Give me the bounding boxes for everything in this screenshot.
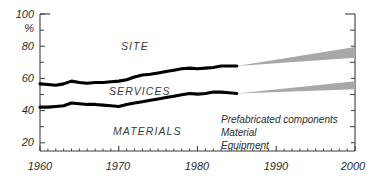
x-tick-label-1970: 1970 (106, 160, 131, 172)
y-tick-label-40: 40 (22, 104, 35, 116)
x-axis-labels: 1960 1970 1980 1990 2000 (28, 160, 366, 172)
band-label-site: SITE (121, 40, 149, 52)
y-tick-label-100: 100 (16, 8, 35, 20)
y-axis-labels: 100 % 80 60 40 20 (16, 8, 35, 148)
annotation-material: Material (221, 127, 257, 138)
x-tick-label-2000: 2000 (340, 160, 366, 172)
chart-svg: 100 % 80 60 40 20 1960 1970 1980 1990 20… (0, 0, 376, 186)
x-tick-label-1990: 1990 (264, 160, 289, 172)
band-label-materials: MATERIALS (113, 125, 182, 137)
x-tick-label-1960: 1960 (28, 160, 53, 172)
annotation-prefabricated-components: Prefabricated components (221, 114, 338, 125)
annotation-equipment: Equipment (221, 140, 270, 151)
y-axis-unit-label: % (24, 22, 34, 34)
chart-container: 100 % 80 60 40 20 1960 1970 1980 1990 20… (0, 0, 376, 186)
x-tick-label-1980: 1980 (185, 160, 210, 172)
y-tick-label-20: 20 (21, 136, 35, 148)
band-label-services: SERVICES (109, 85, 171, 97)
y-tick-label-80: 80 (22, 40, 35, 52)
y-tick-label-60: 60 (22, 72, 35, 84)
